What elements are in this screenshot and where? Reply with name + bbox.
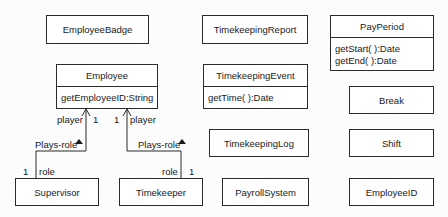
role-label-player-left: player xyxy=(57,115,83,125)
role-label-player-right: player xyxy=(130,115,156,125)
class-name: EmployeeBadge xyxy=(47,16,148,43)
association-name-right: Plays-role xyxy=(138,140,180,150)
class-methods: getTime( ):Date xyxy=(204,87,307,107)
method: getEmployeeID:String xyxy=(61,92,153,104)
class-name: TimekeepingEvent xyxy=(204,65,307,87)
class-timekeeping-event[interactable]: TimekeepingEvent getTime( ):Date xyxy=(203,64,308,109)
class-payroll-system[interactable]: PayrollSystem xyxy=(222,178,309,206)
role-label-role-right: role xyxy=(162,167,178,177)
class-timekeeping-log[interactable]: TimekeepingLog xyxy=(209,129,309,157)
class-supervisor[interactable]: Supervisor xyxy=(15,178,99,206)
multiplicity-supervisor: 1 xyxy=(23,167,28,177)
multiplicity-employee-right: 1 xyxy=(114,115,119,125)
class-name: PayrollSystem xyxy=(223,179,308,205)
class-name: Supervisor xyxy=(16,179,98,205)
method: getStart( ):Date xyxy=(335,43,429,55)
class-shift[interactable]: Shift xyxy=(349,129,434,157)
class-timekeeping-report[interactable]: TimekeepingReport xyxy=(202,15,308,44)
class-pay-period[interactable]: PayPeriod getStart( ):Date getEnd( ):Dat… xyxy=(330,15,434,71)
class-name: Employee xyxy=(57,65,157,87)
role-label-role-left: role xyxy=(39,167,55,177)
association-name-left: Plays-role xyxy=(35,140,77,150)
class-name: Shift xyxy=(350,130,433,156)
navigability-arrowhead-left xyxy=(82,109,90,116)
class-methods: getStart( ):Date getEnd( ):Date xyxy=(331,38,433,70)
class-employee[interactable]: Employee getEmployeeID:String xyxy=(56,64,158,109)
class-name: EmployeeID xyxy=(350,179,433,205)
class-timekeeper[interactable]: Timekeeper xyxy=(119,178,203,206)
class-name: TimekeepingLog xyxy=(210,130,308,156)
class-employee-badge[interactable]: EmployeeBadge xyxy=(46,15,149,44)
class-name: PayPeriod xyxy=(331,16,433,38)
class-name: Break xyxy=(350,87,433,113)
method: getEnd( ):Date xyxy=(335,55,429,67)
class-name: TimekeepingReport xyxy=(203,16,307,43)
class-methods: getEmployeeID:String xyxy=(57,87,157,107)
class-break[interactable]: Break xyxy=(349,86,434,114)
diagram-canvas: EmployeeBadge TimekeepingReport PayPerio… xyxy=(0,0,448,217)
multiplicity-employee-left: 1 xyxy=(93,115,98,125)
class-employee-id[interactable]: EmployeeID xyxy=(349,178,434,206)
class-name: Timekeeper xyxy=(120,179,202,205)
multiplicity-timekeeper: 1 xyxy=(189,167,194,177)
method: getTime( ):Date xyxy=(208,92,303,104)
